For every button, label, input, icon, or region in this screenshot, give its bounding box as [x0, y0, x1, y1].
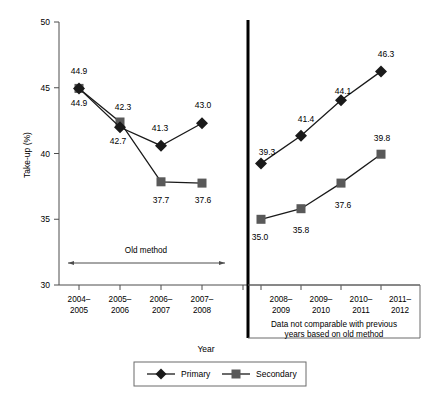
old-method-arrow-head-right — [219, 261, 225, 265]
legend-primary-diamond-icon — [156, 369, 167, 380]
secondary-value-1: 42.3 — [115, 102, 132, 112]
x-label-3-line2: 2008 — [193, 306, 212, 315]
x-label-7-line2: 2012 — [391, 306, 410, 315]
primary-value-4: 39.3 — [259, 147, 276, 157]
x-label-4-line1: 2008– — [270, 295, 293, 304]
secondary-value-4: 35.0 — [252, 232, 269, 242]
primary-value-6: 44.1 — [335, 86, 352, 96]
primary-marker-7 — [375, 65, 387, 77]
x-label-5-line1: 2009– — [310, 295, 333, 304]
secondary-marker-4 — [257, 215, 266, 224]
secondary-value-0: 44.9 — [71, 66, 88, 76]
primary-marker-4 — [255, 157, 267, 169]
secondary-value-3: 37.6 — [195, 195, 212, 205]
y-tick-label-50: 50 — [41, 17, 51, 27]
legend-secondary-square-icon — [232, 370, 241, 379]
secondary-marker-3 — [198, 179, 207, 188]
x-label-2-line1: 2006– — [150, 295, 173, 304]
x-label-6-line2: 2011 — [352, 306, 370, 315]
x-label-1-line1: 2005– — [109, 295, 132, 304]
legend-primary-label: Primary — [181, 369, 211, 379]
primary-value-1: 42.7 — [110, 136, 127, 146]
secondary-marker-6 — [337, 179, 346, 188]
panel-note-line2: years based on old method — [285, 330, 384, 339]
old-method-arrow-head-left — [68, 261, 74, 265]
primary-value-7: 46.3 — [378, 49, 395, 59]
y-axis-title: Take-up (%) — [22, 132, 32, 178]
x-label-3-line1: 2007– — [191, 295, 214, 304]
chart-container: 50 45 40 35 30 Take-up (%) Old method — [0, 0, 445, 397]
legend-secondary-label: Secondary — [256, 369, 297, 379]
y-tick-label-35: 35 — [41, 214, 51, 224]
x-label-4-line2: 2009 — [272, 306, 291, 315]
primary-marker-3 — [196, 117, 208, 129]
chart-svg: 50 45 40 35 30 Take-up (%) Old method — [0, 0, 445, 397]
y-tick-label-45: 45 — [41, 83, 51, 93]
primary-value-2: 41.3 — [152, 123, 169, 133]
primary-line-right — [261, 71, 381, 163]
y-tick-label-40: 40 — [41, 149, 51, 159]
panel-note-line1: Data not comparable with previous — [271, 320, 397, 329]
secondary-marker-2 — [157, 177, 166, 186]
x-label-7-line1: 2011– — [389, 295, 412, 304]
secondary-line-left — [79, 88, 202, 183]
secondary-line-right — [261, 154, 381, 219]
y-tick-label-30: 30 — [41, 280, 51, 290]
primary-marker-2 — [155, 140, 167, 152]
x-label-0-line2: 2005 — [70, 306, 89, 315]
secondary-value-6: 37.6 — [335, 200, 352, 210]
secondary-value-7: 39.8 — [374, 133, 391, 143]
secondary-value-5: 35.8 — [293, 225, 310, 235]
legend-item-primary[interactable]: Primary — [147, 369, 211, 380]
secondary-marker-7 — [377, 150, 386, 159]
x-label-1-line2: 2006 — [111, 306, 130, 315]
secondary-value-2: 37.7 — [153, 195, 170, 205]
x-label-5-line2: 2010 — [312, 306, 331, 315]
primary-value-0: 44.9 — [71, 98, 88, 108]
x-label-2-line2: 2007 — [152, 306, 171, 315]
old-method-label: Old method — [125, 246, 168, 255]
primary-line-left — [79, 88, 202, 145]
primary-value-3: 43.0 — [195, 100, 212, 110]
secondary-marker-5 — [297, 204, 306, 213]
x-axis-title: Year — [197, 344, 214, 354]
x-label-0-line1: 2004– — [68, 295, 91, 304]
x-label-6-line1: 2010– — [350, 295, 373, 304]
legend-item-secondary[interactable]: Secondary — [222, 369, 297, 379]
primary-value-5: 41.4 — [298, 114, 315, 124]
